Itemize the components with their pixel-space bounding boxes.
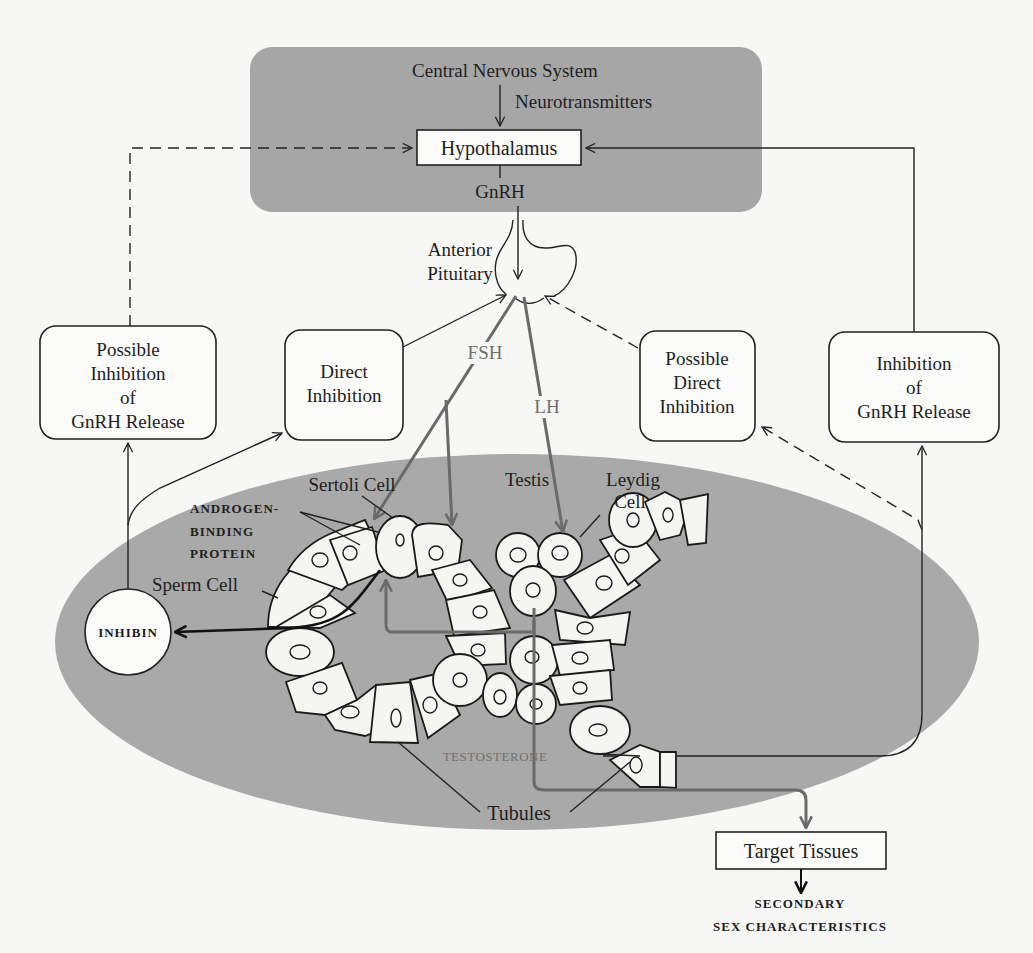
- direct-inhibition-arrow: [403, 295, 506, 347]
- sertoli-cell-label: Sertoli Cell: [308, 474, 395, 495]
- abp-label-line3: PROTEIN: [190, 546, 256, 561]
- svg-text:Direct: Direct: [320, 361, 368, 382]
- box-possible-inhibition-gnrh: Possible Inhibition of GnRH Release: [40, 326, 216, 439]
- abp-label-line1: ANDROGEN-: [190, 501, 279, 516]
- gnrh-label: GnRH: [475, 181, 525, 202]
- secondary-label-line1: SECONDARY: [755, 896, 846, 911]
- secondary-label-line2: SEX CHARACTERISTICS: [713, 919, 887, 934]
- svg-text:GnRH Release: GnRH Release: [71, 411, 184, 432]
- leydig-label-line1: Leydig: [606, 469, 660, 490]
- svg-text:of: of: [906, 377, 923, 398]
- svg-text:Direct: Direct: [673, 372, 721, 393]
- box-possible-direct-inhibition: Possible Direct Inhibition: [640, 331, 755, 441]
- testis-regulation-diagram: Central Nervous System Neurotransmitters…: [0, 0, 1033, 953]
- svg-text:Possible: Possible: [96, 339, 159, 360]
- tubules-label: Tubules: [487, 802, 551, 824]
- box-inhibition-gnrh: Inhibition of GnRH Release: [829, 332, 999, 442]
- testosterone-label: TESTOSTERONE: [443, 749, 548, 764]
- svg-text:Inhibition: Inhibition: [877, 353, 952, 374]
- svg-text:Inhibition: Inhibition: [660, 396, 735, 417]
- svg-text:Inhibition: Inhibition: [307, 385, 382, 406]
- anterior-pituitary-shape: [495, 220, 576, 303]
- cns-label: Central Nervous System: [412, 60, 598, 81]
- svg-text:GnRH Release: GnRH Release: [857, 401, 970, 422]
- target-tissues-label: Target Tissues: [744, 840, 859, 863]
- box-direct-inhibition: Direct Inhibition: [285, 330, 403, 440]
- inhibin-label: INHIBIN: [98, 625, 158, 640]
- neurotransmitters-label: Neurotransmitters: [515, 91, 652, 112]
- testis-label: Testis: [505, 469, 549, 490]
- possible-direct-inhibition-arrow: [545, 296, 638, 348]
- abp-label-line2: BINDING: [190, 524, 254, 539]
- pituitary-label-line2: Pituitary: [427, 263, 493, 284]
- fsh-label: FSH: [468, 342, 503, 363]
- svg-text:Inhibition: Inhibition: [91, 363, 166, 384]
- svg-text:of: of: [120, 387, 137, 408]
- pituitary-label-line1: Anterior: [428, 239, 493, 260]
- sperm-cell-label: Sperm Cell: [152, 574, 238, 595]
- hypothalamus-label: Hypothalamus: [441, 137, 558, 160]
- svg-text:Possible: Possible: [665, 348, 728, 369]
- lh-label: LH: [534, 396, 560, 417]
- leydig-label-line2: Cell: [614, 491, 646, 512]
